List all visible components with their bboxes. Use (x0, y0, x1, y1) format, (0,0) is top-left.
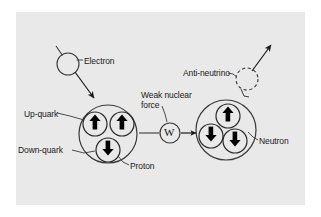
label-w-boson: W (164, 126, 174, 138)
up-quark-leader-line (57, 113, 84, 120)
electron-particle (56, 46, 79, 75)
arrow-up-icon (222, 106, 233, 121)
label-proton: Proton (130, 161, 154, 171)
label-weak-line1: Weak nuclear (141, 90, 192, 100)
proton-up-quark-left (83, 112, 107, 136)
neutron-up-quark (216, 104, 240, 128)
proton-particle (79, 105, 137, 163)
proton-up-quark-right (110, 112, 134, 136)
label-weak-nuclear-force: Weak nuclear force (141, 90, 192, 110)
neutron-particle (196, 100, 256, 160)
label-electron: Electron (84, 56, 114, 66)
label-weak-line2: force (141, 100, 159, 110)
arrow-up-icon (116, 114, 127, 129)
label-anti-neutrino: Anti-neutrino (183, 68, 230, 78)
label-up-quark: Up-quark (24, 109, 58, 119)
proton-down-quark (96, 138, 120, 162)
label-down-quark: Down-quark (18, 145, 63, 155)
electron-incoming-line (56, 46, 63, 56)
diagram-canvas: Electron Up-quark Down-quark Proton Weak… (0, 0, 321, 217)
anti-neutrino-particle (236, 68, 258, 97)
arrow-up-icon (89, 114, 100, 129)
label-neutron: Neutron (259, 136, 289, 146)
arrow-down-icon (102, 141, 113, 156)
neutron-down-quark-right (223, 129, 247, 153)
arrow-down-icon (229, 132, 240, 147)
anti-neutrino-outgoing-arrow (252, 45, 271, 71)
electron-into-proton-arrow (75, 72, 94, 98)
electron-circle (57, 53, 79, 75)
arrow-down-icon (205, 127, 216, 142)
anti-neutrino-circle (236, 68, 258, 90)
neutron-down-quark-left (199, 124, 223, 148)
neutron-leader-line (248, 132, 258, 140)
